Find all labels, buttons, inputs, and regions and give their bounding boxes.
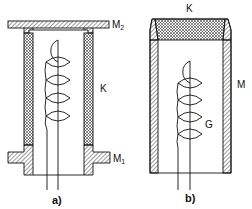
figure-b [150, 19, 231, 190]
figure-a [8, 21, 110, 190]
bottom-flange-m1 [8, 145, 110, 175]
label-m-b: M [237, 79, 245, 90]
tube-wall-k [24, 30, 93, 145]
heating-coil-g [177, 61, 202, 190]
label-k-a: K [100, 83, 107, 94]
label-m1: M1 [113, 153, 125, 165]
housing-m [150, 19, 231, 173]
caption-b: b) [185, 192, 196, 204]
caption-a: a) [52, 194, 62, 206]
heating-coil-a [45, 40, 70, 190]
diagram-canvas: M2 K M1 a) K M G b) [0, 0, 252, 209]
label-k-b: K [186, 3, 193, 14]
cap-k [155, 19, 225, 40]
top-flange-m2 [8, 21, 109, 33]
label-m2: M2 [112, 19, 124, 31]
label-g: G [205, 119, 213, 130]
